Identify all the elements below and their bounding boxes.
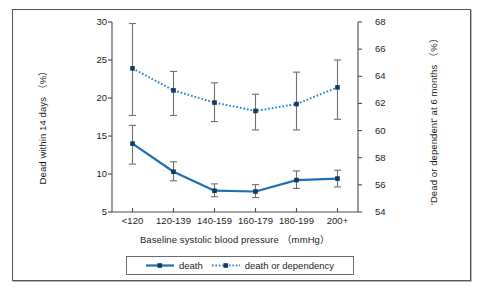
- chart-legend: death death or dependency: [126, 256, 354, 275]
- legend-solid-line-icon: [146, 261, 174, 270]
- left-axis-tick-label: 5: [83, 206, 107, 217]
- legend-dotted-line-icon: [212, 261, 240, 270]
- right-axis-tick-label: 66: [375, 43, 399, 54]
- left-axis-tick-label: 25: [83, 54, 107, 65]
- left-axis-tick-label: 15: [83, 130, 107, 141]
- right-axis-tick-label: 54: [375, 206, 399, 217]
- right-axis-title: 'Dead or dependent' at 6 months （%）: [426, 45, 440, 205]
- right-axis-tick-label: 60: [375, 125, 399, 136]
- legend-label-death-or-dependency: death or dependency: [245, 260, 334, 271]
- right-axis-tick-label: 58: [375, 152, 399, 163]
- right-axis-tick-label: 62: [375, 97, 399, 108]
- legend-entry-death: death: [146, 260, 203, 271]
- right-axis-tick-label: 64: [375, 70, 399, 81]
- legend-entry-death-or-dependency: death or dependency: [212, 260, 334, 271]
- left-axis-tick-label: 30: [83, 16, 107, 27]
- left-axis-tick-label: 10: [83, 168, 107, 179]
- x-axis-tick-label-5: 200+: [310, 215, 366, 226]
- left-axis-tick-label: 20: [83, 92, 107, 103]
- figure-root: 30 25 20 15 10 5 68 66 64 62 60 58 56 54…: [0, 0, 489, 293]
- axes-group: [108, 22, 362, 212]
- legend-label-death: death: [179, 260, 203, 271]
- series-group: [129, 24, 341, 198]
- right-axis-tick-label: 56: [375, 179, 399, 190]
- right-axis-tick-label: 68: [375, 16, 399, 27]
- chart-plot-area: [0, 0, 489, 293]
- x-axis-title: Baseline systolic blood pressure （mmHg）: [104, 232, 366, 246]
- left-axis-title: Dead within 14 days （%）: [35, 45, 49, 205]
